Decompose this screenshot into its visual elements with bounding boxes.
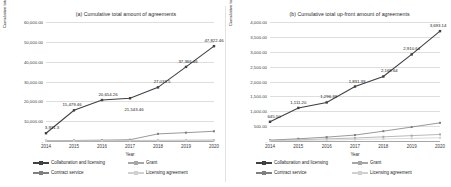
data-label: 21,543.46 — [124, 107, 143, 112]
series-marker — [411, 126, 413, 128]
panel-a-title: (a) Cumulative total amount of agreement… — [0, 11, 226, 17]
data-label: 1,831.39 — [349, 79, 366, 84]
legend-marker-icon — [33, 160, 49, 166]
data-label: 2,910.64 — [403, 46, 420, 51]
legend-row: Contract serviceLicensing agreement — [33, 170, 223, 176]
data-label: 37,366.46 — [178, 59, 197, 64]
series-marker — [213, 45, 215, 47]
x-axis-tick: 2018 — [153, 144, 163, 149]
legend-marker-icon — [352, 160, 368, 166]
series-marker — [354, 139, 356, 141]
series-marker — [73, 140, 75, 142]
x-axis-tick: 2019 — [181, 144, 191, 149]
panel-b-title: (b) Cumulative total up-front amount of … — [226, 11, 451, 17]
legend-row: Contract serviceLicensing agreement — [256, 170, 448, 176]
legend-item[interactable]: Licensing agreement — [128, 170, 223, 176]
data-label: 1,296.39 — [320, 94, 337, 99]
series-marker — [326, 139, 328, 141]
series-marker — [439, 137, 441, 139]
y-axis-tick: - — [42, 139, 43, 144]
legend-item[interactable]: Collaboration and licensing — [33, 160, 128, 166]
legend-marker-icon — [352, 170, 368, 176]
x-axis-tick: 2015 — [293, 144, 303, 149]
series-marker — [439, 122, 441, 124]
series-marker — [326, 136, 328, 138]
x-axis-tick: 2016 — [97, 144, 107, 149]
legend-marker-icon — [128, 170, 144, 176]
series-marker — [129, 140, 131, 142]
x-axis-tick: 2016 — [322, 144, 332, 149]
series-marker — [73, 109, 75, 111]
series-marker — [382, 136, 384, 138]
series-layer — [46, 22, 214, 141]
legend-item[interactable]: Contract service — [33, 170, 128, 176]
x-axis-tick: 2020 — [435, 144, 445, 149]
data-label: 15,479.46 — [62, 102, 81, 107]
legend-marker-icon — [128, 160, 144, 166]
y-axis-tick: - — [266, 139, 267, 144]
chart-panel-b: (b) Cumulative total up-front amount of … — [226, 0, 451, 187]
series-marker — [101, 140, 103, 142]
x-axis-tick: 2017 — [125, 144, 135, 149]
x-axis-tick: 2014 — [41, 144, 51, 149]
legend-label: Licensing agreement — [370, 171, 412, 176]
y-axis-tick: 30,000.00 — [24, 79, 43, 84]
series-marker — [325, 101, 327, 103]
data-label: 47,822.46 — [204, 38, 223, 43]
panel-b-x-axis-label: Year — [270, 152, 440, 157]
y-axis-tick: 2,000.00 — [250, 79, 267, 84]
x-axis-tick: 2020 — [209, 144, 219, 149]
legend-label: Collaboration and licensing — [51, 161, 105, 166]
series-marker — [410, 53, 412, 55]
y-axis-tick: 500.00 — [254, 124, 267, 129]
legend-item[interactable]: Licensing agreement — [352, 170, 448, 176]
series-marker — [439, 30, 441, 32]
series-marker — [297, 139, 299, 141]
x-axis-line — [270, 141, 440, 142]
data-label: 2,168.64 — [381, 68, 398, 73]
series-marker — [185, 132, 187, 134]
legend-marker-icon — [33, 170, 49, 176]
legend-label: Grant — [146, 161, 157, 166]
data-label: 645.50 — [267, 114, 280, 119]
y-axis-tick: 3,000.00 — [250, 49, 267, 54]
y-axis-tick: 2,500.00 — [250, 64, 267, 69]
series-marker — [297, 107, 299, 109]
y-axis-tick: 40,000.00 — [24, 59, 43, 64]
series-marker — [213, 139, 215, 141]
legend-item[interactable]: Grant — [128, 160, 223, 166]
chart-panel-a: (a) Cumulative total amount of agreement… — [0, 0, 226, 187]
y-axis-tick: 3,500.00 — [250, 34, 267, 39]
y-axis-tick: 60,000.00 — [24, 20, 43, 25]
legend-item[interactable]: Collaboration and licensing — [256, 160, 352, 166]
figure-canvas: (a) Cumulative total amount of agreement… — [0, 0, 451, 187]
series-marker — [382, 130, 384, 132]
data-label: 20,654.26 — [98, 92, 117, 97]
series-marker — [269, 140, 271, 142]
series-marker — [157, 140, 159, 142]
panel-a-x-axis-label: Year — [46, 152, 214, 157]
legend-label: Licensing agreement — [146, 171, 188, 176]
series-marker — [354, 85, 356, 87]
y-axis-tick: 10,000.00 — [24, 119, 43, 124]
series-marker — [157, 86, 159, 88]
data-label: 3,931.3 — [45, 125, 59, 130]
legend-label: Contract service — [274, 171, 307, 176]
data-label: 27,033.5 — [154, 79, 171, 84]
legend-row: Collaboration and licensingGrant — [256, 160, 448, 166]
y-axis-tick: 20,000.00 — [24, 99, 43, 104]
y-axis-tick: 50,000.00 — [24, 39, 43, 44]
legend-marker-icon — [256, 160, 272, 166]
panel-b-y-axis-label: Cumulative total up-front amount, $ mill… — [228, 0, 237, 42]
series-marker — [382, 75, 384, 77]
series-marker — [411, 137, 413, 139]
series-marker — [101, 99, 103, 101]
series-marker — [269, 121, 271, 123]
legend-item[interactable]: Contract service — [256, 170, 352, 176]
x-axis-tick: 2014 — [265, 144, 275, 149]
chart-legend: Collaboration and licensingGrantContract… — [33, 160, 223, 180]
legend-item[interactable]: Grant — [352, 160, 448, 166]
chart-legend: Collaboration and licensingGrantContract… — [256, 160, 448, 180]
panel-b-plot-area: Year -500.001,000.001,500.002,000.002,50… — [270, 22, 440, 141]
legend-row: Collaboration and licensingGrant — [33, 160, 223, 166]
